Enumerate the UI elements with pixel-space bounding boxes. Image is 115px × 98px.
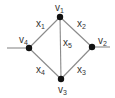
label-x3: x3: [77, 64, 86, 76]
edge-x5: [60, 17, 61, 79]
graph-diagram: v1 v2 v3 v4 x1 x2 x3 x4 x5: [0, 0, 115, 98]
label-x4: x4: [36, 64, 45, 76]
edge-x1: [29, 17, 60, 48]
label-v4: v4: [19, 34, 28, 46]
node-v1: [57, 14, 63, 20]
label-x2: x2: [77, 18, 86, 30]
label-v2: v2: [98, 35, 107, 47]
node-v2: [89, 44, 95, 50]
edge-x4: [29, 48, 61, 79]
node-v3: [58, 76, 64, 82]
label-v1: v1: [55, 2, 64, 14]
label-x5: x5: [63, 37, 72, 49]
label-v3: v3: [58, 84, 67, 96]
label-x1: x1: [36, 18, 45, 30]
